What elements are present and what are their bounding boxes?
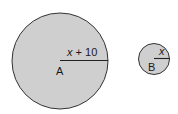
circle-b-group: x B	[139, 44, 170, 75]
circle-b-radius-label: x	[158, 45, 165, 57]
circle-a-group: x + 10 A	[12, 13, 108, 109]
circle-b-label: B	[148, 61, 155, 73]
circles-diagram: x + 10 A x B	[0, 0, 178, 114]
circle-a-radius-label: x + 10	[66, 46, 97, 58]
circle-a-label: A	[56, 65, 64, 77]
